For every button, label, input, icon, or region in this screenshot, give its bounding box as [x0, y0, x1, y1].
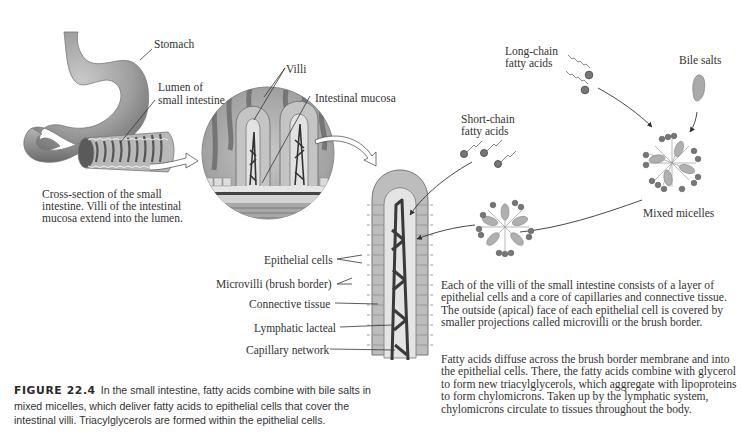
mixed-micelle-lower — [417, 200, 534, 257]
label-cross-section-line3: mucosa extend into the lumen. — [42, 212, 183, 225]
label-epithelial-cells: Epithelial cells — [264, 254, 333, 267]
label-villi: Villi — [286, 63, 306, 76]
label-stomach: Stomach — [154, 38, 194, 51]
label-microvilli: Microvilli (brush border) — [216, 278, 332, 291]
label-bile-salts: Bile salts — [679, 54, 722, 67]
bile-salt-molecule — [690, 75, 705, 132]
description-paragraph-1: Each of the villi of the small intestine… — [441, 280, 741, 330]
label-long-chain-line2: fatty acids — [505, 57, 553, 70]
label-connective-tissue: Connective tissue — [249, 298, 330, 311]
label-mixed-micelles: Mixed micelles — [643, 207, 714, 220]
mixed-micelle-upper — [643, 133, 701, 192]
label-lymphatic-lacteal: Lymphatic lacteal — [254, 322, 336, 335]
villi-magnified-circle — [195, 87, 376, 223]
label-capillary-network: Capillary network — [246, 344, 329, 357]
figure-number: FIGURE 22.4 — [14, 384, 96, 397]
label-short-chain-line2: fatty acids — [461, 125, 509, 138]
label-intestinal-mucosa: Intestinal mucosa — [315, 92, 396, 105]
label-lumen-line2: small intestine — [158, 94, 225, 107]
figure-caption: FIGURE 22.4In the small intestine, fatty… — [14, 383, 379, 428]
label-lumen-line1: Lumen of — [158, 81, 203, 94]
description-paragraph-2: Fatty acids diffuse across the brush bor… — [441, 354, 741, 416]
long-chain-fatty-acid-molecules — [566, 55, 652, 127]
